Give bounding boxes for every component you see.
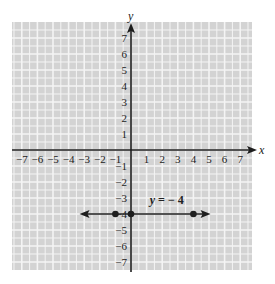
equation-variable: y [148, 193, 156, 207]
x-tick-label: 5 [206, 153, 212, 165]
y-tick-label: 5 [122, 64, 128, 76]
y-axis-label: y [127, 9, 134, 23]
y-tick-label: −3 [115, 192, 127, 204]
x-tick-label: 1 [144, 153, 150, 165]
x-tick-label: 2 [159, 153, 165, 165]
x-axis-label: x [258, 143, 265, 157]
y-tick-label: 4 [122, 80, 128, 92]
data-point [190, 211, 197, 218]
x-tick-label: −3 [78, 153, 90, 165]
y-tick-label: −6 [115, 240, 127, 252]
y-tick-label: 1 [122, 128, 128, 140]
grid-background [12, 22, 252, 270]
y-tick-label: −2 [115, 176, 127, 188]
x-tick-label: −6 [32, 153, 44, 165]
y-tick-label: 7 [122, 32, 128, 44]
y-tick-label: −7 [115, 256, 127, 268]
x-tick-label: −4 [63, 153, 75, 165]
x-tick-label: −5 [47, 153, 59, 165]
x-tick-label: 3 [175, 153, 181, 165]
equation-rest: = − 4 [158, 193, 184, 207]
x-tick-label: −7 [16, 153, 28, 165]
y-tick-label: −1 [115, 160, 127, 172]
x-tick-label: 7 [237, 153, 243, 165]
y-tick-label: 3 [122, 96, 128, 108]
x-tick-label: −2 [94, 153, 106, 165]
y-tick-label: −5 [115, 224, 127, 236]
coordinate-plane: −7−6−5−4−3−2−112345677654321−1−2−3−4−5−6… [0, 0, 275, 284]
data-point [112, 211, 119, 218]
equation-label: y = − 4 [148, 193, 184, 207]
y-tick-label: 6 [122, 48, 128, 60]
data-point [128, 211, 135, 218]
x-tick-label: 6 [222, 153, 228, 165]
x-tick-label: 4 [191, 153, 197, 165]
y-tick-label: 2 [122, 112, 128, 124]
